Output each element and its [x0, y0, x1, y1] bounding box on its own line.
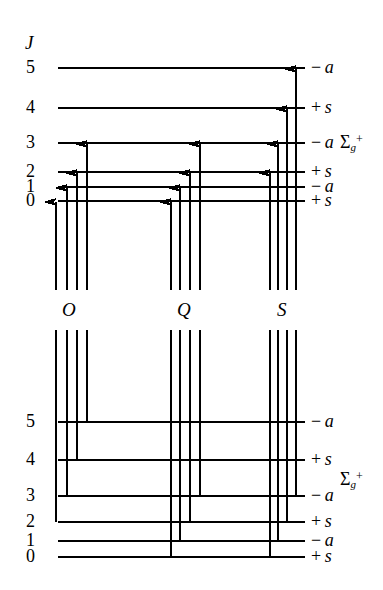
- lower-j-number-3: 3: [26, 486, 35, 504]
- branch-label-Q: Q: [177, 300, 191, 319]
- upper-parity-label-j0: + s: [311, 191, 332, 209]
- upper-parity-label-j5: − a: [311, 58, 334, 76]
- lower-parity-label-j5: − a: [311, 412, 334, 430]
- lower-level-lines: [58, 422, 305, 557]
- upper-j-number-3: 3: [26, 133, 35, 151]
- j-axis-label: J: [25, 33, 33, 52]
- upper-parity-label-j4: + s: [311, 98, 332, 116]
- branch-label-O: O: [62, 300, 76, 319]
- lower-parity-label-j4: + s: [311, 450, 332, 468]
- upper-level-lines: [58, 68, 305, 201]
- lower-parity-label-j2: + s: [311, 512, 332, 530]
- lower-term-symbol: Σg+: [340, 470, 363, 490]
- energy-level-diagram: J 543210 543210 − a+ s− a+ s− a+ s − a+ …: [0, 0, 383, 590]
- lower-parity-label-j0: + s: [311, 547, 332, 565]
- lower-parity-label-j3: − a: [311, 486, 334, 504]
- upper-j-number-4: 4: [26, 98, 35, 116]
- upper-j-number-0: 0: [26, 191, 35, 209]
- branch-label-S: S: [277, 300, 287, 319]
- upper-term-symbol: Σg+: [340, 133, 363, 153]
- lower-j-number-2: 2: [26, 512, 35, 530]
- upper-parity-label-j3: − a: [311, 133, 334, 151]
- lower-j-number-0: 0: [26, 547, 35, 565]
- upper-j-number-5: 5: [26, 58, 35, 76]
- lower-j-number-5: 5: [26, 412, 35, 430]
- lower-j-number-4: 4: [26, 450, 35, 468]
